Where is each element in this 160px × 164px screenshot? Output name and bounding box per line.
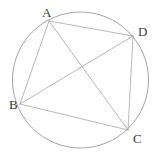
vertex-label-d: D — [138, 25, 147, 38]
side-ad — [49, 21, 133, 36]
vertex-label-a: A — [42, 6, 51, 19]
side-dc — [128, 36, 133, 130]
diagonal-bd — [20, 36, 133, 104]
vertex-label-b: B — [9, 98, 18, 111]
geometry-figure: ADBC — [0, 0, 160, 164]
vertex-label-c: C — [133, 132, 142, 145]
chord-segments — [20, 21, 133, 130]
side-ab — [20, 21, 49, 104]
